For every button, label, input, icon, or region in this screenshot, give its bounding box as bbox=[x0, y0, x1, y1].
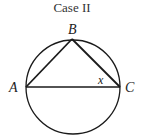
angle-x-label: x bbox=[97, 73, 104, 87]
point-c-label: C bbox=[125, 80, 135, 95]
point-a-label: A bbox=[8, 80, 18, 95]
point-b-label: B bbox=[68, 22, 77, 37]
circle-triangle-diagram: A B C x bbox=[0, 0, 144, 138]
